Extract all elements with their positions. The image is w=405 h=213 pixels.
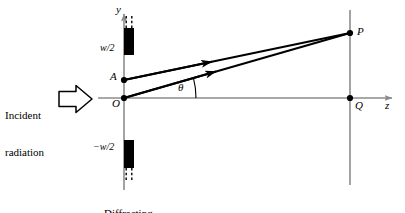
- incident-radiation-line2: radiation: [5, 146, 44, 158]
- theta-angle-arc: [194, 79, 196, 98]
- point-Q-marker: [347, 95, 353, 101]
- aperture-lower-block: [124, 140, 134, 168]
- aperture-upper-edge-label: w/2: [100, 42, 114, 53]
- point-P-label: P: [357, 25, 364, 37]
- point-A-marker: [121, 77, 127, 83]
- incident-radiation-label: Incident radiation: [5, 84, 44, 183]
- theta-angle-label: θ: [178, 81, 183, 93]
- point-O-marker: [121, 95, 127, 101]
- ray-group: [124, 33, 350, 98]
- y-axis-label: y: [116, 3, 121, 15]
- incident-radiation-line1: Incident: [5, 109, 44, 121]
- point-P-marker: [347, 30, 353, 36]
- diffracting-aperture-figure: y z A O P Q θ w/2 −w/2 Incident radiatio…: [0, 0, 405, 213]
- aperture-caption-line1: Diffracting: [104, 207, 153, 213]
- z-axis-label: z: [385, 99, 389, 111]
- aperture-upper-dashes: [126, 16, 132, 28]
- point-A-label: A: [110, 70, 117, 82]
- point-O-label: O: [112, 97, 120, 109]
- point-Q-label: Q: [355, 99, 363, 111]
- aperture-upper-block: [124, 28, 134, 55]
- figure-canvas: [0, 0, 405, 213]
- aperture-lower-edge-label: −w/2: [93, 141, 114, 152]
- aperture-lower-dashes: [126, 168, 132, 180]
- block-arrow-right-icon: [59, 86, 92, 113]
- aperture-caption: Diffracting aperture: [104, 182, 153, 213]
- ray-O-to-P-arrowhead-segment: [124, 72, 216, 99]
